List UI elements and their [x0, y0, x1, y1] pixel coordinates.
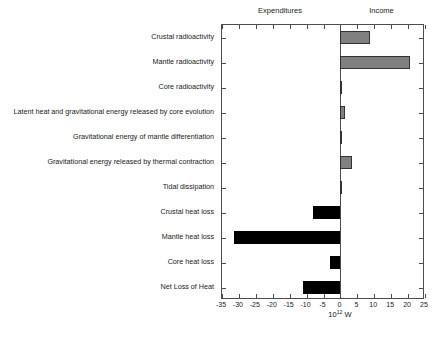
- x-axis-tick: [374, 25, 375, 29]
- y-axis-tick: [419, 88, 423, 89]
- y-axis-tick: [222, 213, 226, 214]
- plot-area: [221, 24, 424, 299]
- y-axis-tick: [222, 138, 226, 139]
- bar: [234, 231, 341, 244]
- y-axis-tick: [419, 63, 423, 64]
- x-axis-tick: [256, 25, 257, 29]
- x-axis-title-unit: W: [342, 310, 351, 319]
- x-axis-tick: [307, 25, 308, 29]
- y-category-label: Core heat loss: [0, 257, 218, 266]
- x-axis-tick: [324, 25, 325, 29]
- bar: [313, 206, 340, 219]
- chart-figure: Expenditures Income 1012 W -35-30-25-20-…: [0, 0, 443, 344]
- bar: [330, 256, 340, 269]
- y-axis-tick: [419, 263, 423, 264]
- x-axis-tick: [357, 25, 358, 29]
- y-category-label: Crustal heat loss: [0, 207, 218, 216]
- bar: [340, 31, 370, 44]
- bar: [340, 56, 409, 69]
- y-axis-tick: [419, 38, 423, 39]
- bar: [340, 156, 352, 169]
- x-axis-tick: [340, 294, 341, 298]
- bar: [340, 106, 345, 119]
- x-axis-tick: [239, 25, 240, 29]
- x-axis-tick: [391, 25, 392, 29]
- x-axis-tick: [408, 294, 409, 298]
- x-axis-tick: [222, 25, 223, 29]
- y-axis-tick: [419, 288, 423, 289]
- y-axis-tick: [222, 263, 226, 264]
- y-axis-tick: [222, 288, 226, 289]
- y-axis-tick: [222, 238, 226, 239]
- y-axis-tick: [419, 113, 423, 114]
- bar: [340, 81, 342, 94]
- column-heading-expenditures: Expenditures: [221, 6, 339, 15]
- y-axis-tick: [419, 138, 423, 139]
- x-axis-tick: [222, 294, 223, 298]
- y-axis-tick: [222, 88, 226, 89]
- y-axis-tick: [222, 113, 226, 114]
- x-axis-tick: [408, 25, 409, 29]
- x-axis-title-mantissa: 10: [328, 310, 336, 319]
- x-axis-tick: [239, 294, 240, 298]
- x-axis-tick: [425, 294, 426, 298]
- x-axis-tick: [307, 294, 308, 298]
- x-axis-title: 1012 W: [280, 310, 400, 319]
- y-axis-tick: [222, 63, 226, 64]
- x-axis-tick: [425, 25, 426, 29]
- y-axis-tick: [222, 38, 226, 39]
- x-axis-tick: [290, 294, 291, 298]
- x-axis-tick: [273, 294, 274, 298]
- y-axis-tick: [222, 188, 226, 189]
- x-axis-tick: [273, 25, 274, 29]
- y-axis-tick: [419, 238, 423, 239]
- x-axis-tick: [290, 25, 291, 29]
- bar: [340, 131, 342, 144]
- y-axis-tick: [419, 213, 423, 214]
- bar: [303, 281, 340, 294]
- y-category-label: Core radioactivity: [0, 82, 218, 91]
- y-axis-tick: [419, 188, 423, 189]
- bar: [340, 181, 342, 194]
- y-category-label: Tidal dissipation: [0, 182, 218, 191]
- x-tick-label: 25: [411, 301, 437, 308]
- y-category-label: Crustal radioactivity: [0, 32, 218, 41]
- x-axis-tick: [340, 25, 341, 29]
- y-axis-tick: [222, 163, 226, 164]
- y-category-label: Gravitational energy of mantle different…: [0, 132, 218, 141]
- plot-inner: [222, 25, 423, 298]
- x-axis-tick: [324, 294, 325, 298]
- column-heading-income: Income: [339, 6, 424, 15]
- x-axis-tick: [256, 294, 257, 298]
- y-category-label: Net Loss of Heat: [0, 282, 218, 291]
- x-axis-tick: [391, 294, 392, 298]
- x-axis-tick: [374, 294, 375, 298]
- y-axis-tick: [419, 163, 423, 164]
- x-axis-tick: [357, 294, 358, 298]
- y-category-label: Mantle heat loss: [0, 232, 218, 241]
- y-category-label: Mantle radioactivity: [0, 57, 218, 66]
- y-category-label: Latent heat and gravitational energy rel…: [0, 107, 218, 116]
- y-category-label: Gravitational energy released by thermal…: [0, 157, 218, 166]
